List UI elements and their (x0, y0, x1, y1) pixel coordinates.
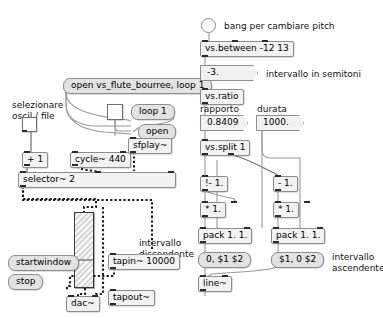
vs-split-outlet-left (202, 153, 208, 155)
pd-patch-canvas: selezionare oscil / file open vs_flute_b… (0, 0, 383, 318)
times-right-inlet-2 (304, 201, 310, 203)
pack-right-outlet (273, 241, 279, 243)
times-left-inlet-2 (231, 201, 237, 203)
pack-right-inlet-2 (317, 227, 323, 229)
comment-bang-pitch: bang per cambiare pitch (224, 21, 335, 32)
comment-durata: durata (257, 104, 287, 115)
object-dac[interactable]: dac~ (66, 296, 100, 312)
selector-inlet-2 (95, 171, 101, 173)
times-left-inlet-1 (202, 201, 208, 203)
tapin-outlet (110, 267, 116, 269)
sfplay-outlet (130, 151, 136, 153)
message-open-file[interactable]: open vs_flute_bourree, loop 1 (63, 78, 212, 94)
line-inlet-1 (200, 275, 206, 277)
vs-between-inlet-3 (262, 40, 268, 42)
selector-inlet-1 (20, 171, 26, 173)
pack-left-inlet-1 (200, 227, 206, 229)
minus-outlet (275, 189, 281, 191)
numberbox-duration[interactable]: 1000. (256, 115, 304, 131)
selector-outlet (20, 185, 26, 187)
toggle-loop[interactable] (107, 104, 123, 120)
pack-right-inlet-1 (273, 227, 279, 229)
tapin-inlet (110, 253, 116, 255)
pack-left-outlet (200, 241, 206, 243)
object-vs-between[interactable]: vs.between -12 13 (200, 41, 294, 57)
dac-inlet-left (68, 295, 74, 297)
message-ramp-down[interactable]: 0, $1 $2 (198, 252, 251, 268)
inverse-minus-outlet (202, 189, 208, 191)
cycle-inlet-left (72, 151, 78, 153)
comment-intervallo-ascendente-line1: intervallo (332, 252, 374, 263)
message-stop[interactable]: stop (8, 274, 43, 290)
times-right-inlet-1 (275, 201, 281, 203)
comment-rapporto: rapporto (200, 104, 239, 115)
cycle-outlet (72, 164, 78, 166)
vs-split-outlet-right (228, 153, 234, 155)
vs-ratio-inlet (202, 88, 208, 90)
object-pack-right[interactable]: pack 1. 1. (271, 228, 325, 244)
pack-left-inlet-2 (244, 227, 250, 229)
dac-inlet-right (92, 295, 98, 297)
numberbox-ratio[interactable]: 0.8409 (200, 115, 248, 131)
tapout-inlet (110, 289, 116, 291)
volume-slider[interactable] (74, 212, 94, 288)
line-outlet (200, 289, 206, 291)
plus-one-inlet (24, 151, 30, 153)
sfplay-inlet (130, 137, 136, 139)
numberbox-semitones[interactable]: -3. (200, 65, 258, 81)
selector-inlet-3 (168, 171, 174, 173)
message-ramp-up[interactable]: $1, 0 $2 (271, 252, 324, 268)
vs-between-inlet-1 (202, 40, 208, 42)
line-inlet-2 (222, 275, 228, 277)
object-selector[interactable]: selector~ 2 (18, 172, 176, 188)
message-loop-one[interactable]: loop 1 (131, 104, 175, 120)
times-left-outlet (202, 215, 208, 217)
vs-between-outlet (202, 55, 208, 57)
object-tapin[interactable]: tapin~ 10000 (108, 254, 180, 270)
vs-split-inlet (202, 139, 208, 141)
minus-inlet (275, 175, 281, 177)
comment-intervallo-ascendente-line2: ascendente (332, 263, 383, 274)
vs-between-inlet-2 (232, 40, 238, 42)
plus-one-outlet (24, 164, 30, 166)
comment-selezionare: selezionare (12, 100, 63, 111)
comment-intervallo-discendente-line1: intervallo (139, 238, 181, 249)
tapout-outlet (110, 303, 116, 305)
toggle-oscil-file-outlet (22, 130, 27, 132)
inverse-minus-inlet (202, 175, 208, 177)
message-startwindow[interactable]: startwindow (8, 255, 79, 271)
cycle-inlet-right (120, 151, 126, 153)
object-cycle[interactable]: cycle~ 440 (70, 152, 131, 168)
bang-pitch-icon[interactable] (201, 18, 216, 33)
comment-intervallo-semitoni: intervallo in semitoni (266, 69, 361, 80)
times-right-outlet (275, 215, 281, 217)
object-pack-left[interactable]: pack 1. 1. (198, 228, 252, 244)
